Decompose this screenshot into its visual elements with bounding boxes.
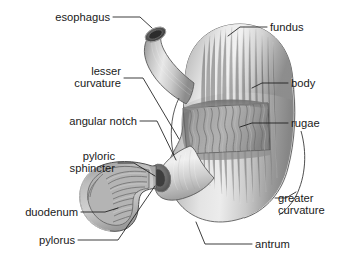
label-angular-notch: angular notch xyxy=(69,115,137,127)
leader-angular-notch xyxy=(140,121,176,160)
label-pylorus: pylorus xyxy=(39,234,75,246)
label-lesser-curvature-line1: lesser xyxy=(91,65,121,77)
leader-antrum xyxy=(196,222,252,244)
label-pyloric-sphincter-line2: sphincter xyxy=(70,162,116,174)
label-lesser-curvature-line2: curvature xyxy=(74,77,121,89)
label-antrum: antrum xyxy=(255,238,290,250)
label-fundus: fundus xyxy=(270,21,304,33)
label-duodenum: duodenum xyxy=(25,206,78,218)
label-greater-curvature-line2: curvature xyxy=(278,204,325,216)
esophagus-group xyxy=(143,24,194,104)
label-rugae: rugae xyxy=(291,117,320,129)
label-body: body xyxy=(291,77,316,89)
stomach-diagram-page: esophagus fundus lesser curvature body a… xyxy=(0,0,355,262)
label-esophagus: esophagus xyxy=(55,11,110,23)
stomach-anatomy-illustration: esophagus fundus lesser curvature body a… xyxy=(0,0,355,262)
label-pyloric-sphincter-line1: pyloric xyxy=(83,150,116,162)
stomach-organ-group xyxy=(80,24,305,231)
leader-esophagus xyxy=(113,17,152,28)
label-greater-curvature-line1: greater xyxy=(278,192,314,204)
